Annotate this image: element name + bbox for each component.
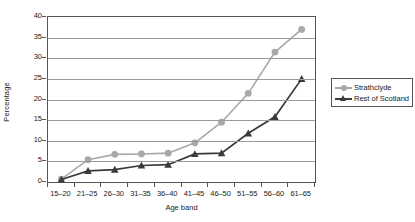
legend-item-rest-of-scotland: Rest of Scotland bbox=[335, 93, 409, 104]
series-line bbox=[61, 79, 301, 180]
y-tick-mark bbox=[42, 160, 46, 161]
x-tick-label: 31–35 bbox=[130, 189, 150, 198]
x-tick-mark bbox=[100, 183, 101, 187]
x-tick-mark bbox=[207, 183, 208, 187]
x-axis-title: Age band bbox=[47, 203, 316, 212]
y-tick-mark bbox=[42, 37, 46, 38]
x-tick-mark bbox=[314, 183, 315, 187]
x-tick-mark bbox=[127, 183, 128, 187]
x-tick-label: 61–65 bbox=[290, 189, 310, 198]
legend-marker-circle-icon bbox=[335, 83, 352, 93]
y-tick-mark bbox=[42, 57, 46, 58]
x-tick-label: 41–45 bbox=[184, 189, 204, 198]
gridline bbox=[48, 141, 315, 142]
x-tick-mark bbox=[74, 183, 75, 187]
data-point-circle bbox=[272, 49, 279, 56]
plot-area bbox=[47, 16, 316, 183]
x-tick-mark bbox=[234, 183, 235, 187]
y-tick-label: 35 bbox=[34, 33, 42, 41]
y-tick-label: 20 bbox=[34, 95, 42, 103]
y-tick-label: 10 bbox=[34, 136, 42, 144]
x-axis-tick-labels: 15–2021–2526–3031–3536–4041–4546–5051–55… bbox=[0, 189, 415, 201]
gridline bbox=[48, 161, 315, 162]
gridline bbox=[48, 120, 315, 121]
gridline bbox=[48, 38, 315, 39]
y-tick-mark bbox=[42, 16, 46, 17]
data-point-circle bbox=[245, 90, 252, 97]
gridline bbox=[48, 100, 315, 101]
legend-marker-triangle-icon bbox=[335, 94, 352, 104]
series-line bbox=[61, 29, 301, 179]
x-tick-label: 46–50 bbox=[210, 189, 230, 198]
y-tick-mark bbox=[42, 78, 46, 79]
x-tick-mark bbox=[181, 183, 182, 187]
x-tick-mark bbox=[261, 183, 262, 187]
data-point-circle bbox=[165, 150, 172, 157]
x-tick-mark bbox=[47, 183, 48, 187]
y-tick-label: 25 bbox=[34, 74, 42, 82]
y-tick-mark bbox=[42, 181, 46, 182]
y-tick-label: 40 bbox=[34, 12, 42, 20]
y-tick-label: 30 bbox=[34, 53, 42, 61]
line-chart: Percentage 0510152025303540 15–2021–2526… bbox=[0, 0, 415, 222]
legend-item-strathclyde: Strathclyde bbox=[335, 82, 409, 93]
data-point-triangle bbox=[244, 130, 252, 137]
y-tick-mark bbox=[42, 140, 46, 141]
data-point-circle bbox=[138, 151, 145, 158]
legend-label-strathclyde: Strathclyde bbox=[354, 83, 392, 92]
gridline bbox=[48, 58, 315, 59]
legend-label-rest-of-scotland: Rest of Scotland bbox=[354, 94, 409, 103]
x-tick-mark bbox=[287, 183, 288, 187]
gridline bbox=[48, 79, 315, 80]
x-tick-mark bbox=[154, 183, 155, 187]
x-tick-label: 26–30 bbox=[104, 189, 124, 198]
y-tick-mark bbox=[42, 119, 46, 120]
data-point-circle bbox=[111, 151, 118, 158]
y-tick-label: 15 bbox=[34, 115, 42, 123]
chart-legend: Strathclyde Rest of Scotland bbox=[331, 78, 413, 107]
x-tick-label: 21–25 bbox=[77, 189, 97, 198]
y-tick-mark bbox=[42, 99, 46, 100]
x-tick-label: 56–60 bbox=[264, 189, 284, 198]
x-tick-label: 36–40 bbox=[157, 189, 177, 198]
x-tick-label: 15–20 bbox=[50, 189, 70, 198]
data-point-circle bbox=[298, 26, 305, 33]
y-axis-title: Percentage bbox=[2, 0, 11, 62]
x-tick-label: 51–55 bbox=[237, 189, 257, 198]
y-axis-title-text: Percentage bbox=[2, 62, 11, 142]
